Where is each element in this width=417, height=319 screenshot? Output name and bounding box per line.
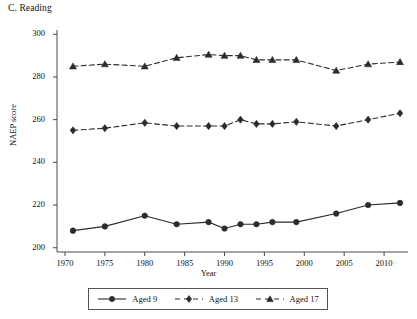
data-point-circle xyxy=(222,226,228,232)
chart-legend: Aged 9Aged 13Aged 17 xyxy=(88,288,328,310)
data-point-diamond xyxy=(294,118,300,125)
data-point-diamond xyxy=(186,296,191,303)
data-point-circle xyxy=(294,219,300,225)
data-point-diamond xyxy=(254,120,260,127)
data-point-circle xyxy=(142,213,148,219)
series-line xyxy=(73,55,400,71)
data-point-diamond xyxy=(206,122,212,129)
legend-key-diamond-icon xyxy=(174,293,204,305)
plot-area xyxy=(0,0,417,319)
chart-figure: C. Reading NAEP score Year 3002802602402… xyxy=(0,0,417,319)
legend-item-aged-17: Aged 17 xyxy=(255,293,319,305)
data-point-circle xyxy=(70,228,76,234)
series-aged-9 xyxy=(70,200,403,233)
series-aged-17 xyxy=(69,51,403,73)
data-point-diamond xyxy=(238,116,244,123)
legend-item-aged-13: Aged 13 xyxy=(174,293,238,305)
data-point-diamond xyxy=(174,122,180,129)
data-point-circle xyxy=(365,202,371,208)
data-point-diamond xyxy=(70,127,76,134)
data-point-diamond xyxy=(142,119,148,126)
data-point-circle xyxy=(206,219,212,225)
data-point-circle xyxy=(174,221,180,227)
data-point-diamond xyxy=(270,120,276,127)
data-point-diamond xyxy=(397,110,403,117)
legend-key-triangle-icon xyxy=(255,293,285,305)
series-aged-13 xyxy=(70,110,403,134)
legend-key-circle-icon xyxy=(97,293,127,305)
data-point-triangle xyxy=(365,61,372,67)
series-line xyxy=(73,203,400,231)
legend-item-aged-9: Aged 9 xyxy=(97,293,157,305)
data-point-circle xyxy=(254,221,260,227)
legend-label: Aged 13 xyxy=(207,294,238,304)
series-line xyxy=(73,113,400,130)
data-point-circle xyxy=(333,211,339,217)
legend-label: Aged 9 xyxy=(130,294,157,304)
data-point-circle xyxy=(270,219,276,225)
data-point-diamond xyxy=(102,125,108,132)
data-point-diamond xyxy=(222,122,228,129)
data-point-circle xyxy=(238,221,244,227)
legend-label: Aged 17 xyxy=(288,294,319,304)
data-point-diamond xyxy=(333,122,339,129)
data-point-circle xyxy=(397,200,403,206)
data-point-circle xyxy=(102,224,108,230)
data-point-diamond xyxy=(365,116,371,123)
data-point-circle xyxy=(110,296,115,301)
